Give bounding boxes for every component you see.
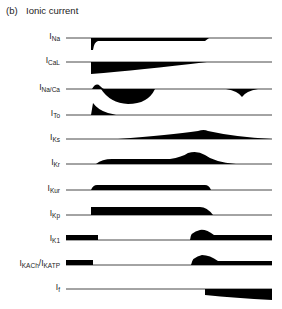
trace-ikach: [66, 260, 93, 265]
trace-ical: [91, 62, 207, 74]
trace-inaca-bowl: [101, 89, 155, 104]
trace-inaca: [92, 85, 104, 89]
trace-ikp: [91, 207, 213, 215]
trace-ikach-late: [191, 255, 272, 265]
trace-inaca-notch: [226, 89, 258, 97]
trace-ina: [91, 38, 209, 50]
trace-ik1: [66, 235, 98, 240]
trace-ik1-late: [190, 230, 272, 240]
trace-ito: [91, 103, 116, 115]
ionic-current-traces: [0, 0, 282, 309]
trace-if: [205, 289, 272, 300]
trace-ikur: [91, 185, 211, 190]
trace-iks: [118, 130, 272, 139]
trace-ikr: [96, 152, 236, 164]
